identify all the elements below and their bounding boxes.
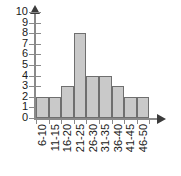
bar: [49, 97, 62, 118]
y-axis-tick-label: 1: [2, 101, 28, 112]
x-axis-category-label-text: 21-25: [75, 124, 86, 152]
y-axis-tick-label: 5: [2, 59, 28, 70]
x-axis-category-label-text: 46-50: [138, 124, 149, 152]
x-axis-category-label: 6-10: [36, 124, 49, 176]
y-axis-tick-label: 2: [2, 91, 28, 102]
x-axis-category-label-text: 36-40: [112, 124, 123, 152]
bar: [112, 86, 125, 118]
x-axis-category-label: 11-15: [49, 124, 62, 176]
y-axis-tick-label: 4: [2, 70, 28, 81]
bar: [99, 76, 112, 118]
x-axis-category-label-text: 26-30: [87, 124, 98, 152]
y-axis-labels: 012345678910: [0, 0, 28, 176]
x-axis-category-label: 21-25: [74, 124, 87, 176]
y-axis-tick-label: 6: [2, 48, 28, 59]
y-axis-tick-label: 3: [2, 80, 28, 91]
x-axis-line: [34, 118, 158, 120]
x-axis-category-label-text: 41-45: [125, 124, 136, 152]
x-axis-category-label: 26-30: [86, 124, 99, 176]
x-axis-category-label-text: 6-10: [37, 124, 48, 146]
x-axis-category-label-text: 31-35: [100, 124, 111, 152]
bar: [61, 86, 74, 118]
x-axis-category-label: 31-35: [99, 124, 112, 176]
bar: [86, 76, 99, 118]
x-axis-category-label: 46-50: [137, 124, 150, 176]
bar: [36, 97, 49, 118]
x-axis-category-label-text: 16-20: [62, 124, 73, 152]
x-axis-category-labels: 6-1011-1516-2021-2526-3031-3536-4041-454…: [36, 124, 162, 176]
y-axis-tick-label: 0: [2, 112, 28, 123]
y-axis-tick-label: 9: [2, 17, 28, 28]
x-axis-category-label: 36-40: [112, 124, 125, 176]
histogram-chart: 012345678910 6-1011-1516-2021-2526-3031-…: [0, 0, 181, 176]
bar: [74, 33, 87, 118]
x-axis-category-label: 16-20: [61, 124, 74, 176]
y-axis-tick-label: 8: [2, 27, 28, 38]
bar: [137, 97, 150, 118]
plot-area: [36, 12, 162, 118]
x-axis-category-label-text: 11-15: [49, 124, 60, 151]
y-axis-tick-label: 10: [2, 6, 28, 17]
bar: [124, 97, 137, 118]
y-axis-tick-label: 7: [2, 38, 28, 49]
x-axis-category-label: 41-45: [124, 124, 137, 176]
